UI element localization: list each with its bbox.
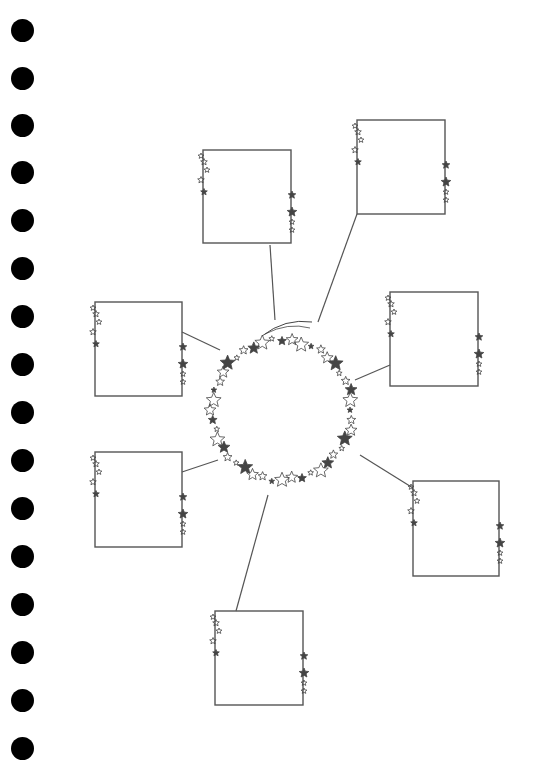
star-icon bbox=[388, 301, 395, 307]
star-icon bbox=[298, 474, 307, 482]
star-icon bbox=[180, 529, 186, 534]
star-icon bbox=[93, 341, 100, 347]
star-icon bbox=[355, 129, 362, 135]
star-icon bbox=[289, 219, 295, 224]
star-icon bbox=[201, 159, 208, 165]
box-bottom[interactable] bbox=[215, 611, 303, 705]
star-icon bbox=[496, 522, 504, 529]
star-icon bbox=[347, 407, 353, 412]
star-icon bbox=[204, 167, 210, 172]
star-icon bbox=[495, 538, 505, 547]
star-icon bbox=[443, 197, 449, 202]
connector-line bbox=[270, 245, 275, 320]
star-icon bbox=[300, 652, 308, 659]
star-icon bbox=[93, 311, 100, 317]
shooting-star-tail bbox=[262, 321, 312, 336]
connector-line bbox=[360, 455, 413, 488]
star-icon bbox=[391, 309, 397, 314]
star-icon bbox=[476, 361, 482, 366]
star-icon bbox=[301, 680, 307, 685]
star-icon bbox=[411, 520, 418, 526]
star-icon bbox=[269, 478, 275, 483]
star-icon bbox=[301, 688, 307, 693]
star-icon bbox=[308, 343, 314, 349]
star-icon bbox=[337, 431, 352, 445]
star-icon bbox=[388, 331, 395, 337]
star-icon bbox=[216, 377, 225, 385]
star-icon bbox=[336, 370, 342, 376]
star-icon bbox=[96, 319, 102, 324]
star-icon bbox=[411, 490, 418, 496]
star-icon bbox=[286, 471, 298, 482]
star-icon bbox=[329, 450, 338, 458]
star-icon bbox=[299, 668, 309, 677]
star-icon bbox=[258, 472, 267, 480]
star-icon bbox=[286, 334, 298, 345]
star-icon bbox=[497, 550, 503, 555]
star-icon bbox=[206, 392, 221, 406]
star-icon bbox=[204, 404, 216, 415]
star-icon bbox=[343, 392, 358, 406]
star-icon bbox=[441, 177, 451, 186]
star-icon bbox=[358, 137, 364, 142]
star-icon bbox=[234, 355, 240, 360]
star-icon bbox=[213, 620, 220, 626]
box-top-left[interactable] bbox=[203, 150, 291, 243]
star-icon bbox=[208, 415, 217, 423]
star-icon bbox=[218, 441, 230, 452]
connector-line bbox=[355, 365, 390, 380]
star-icon bbox=[278, 336, 287, 344]
star-icon bbox=[96, 469, 102, 474]
box-mid-left[interactable] bbox=[95, 302, 182, 396]
star-icon bbox=[414, 498, 420, 503]
star-icon bbox=[443, 189, 449, 194]
star-icon bbox=[223, 453, 232, 461]
star-icon bbox=[345, 384, 357, 395]
star-icon bbox=[475, 333, 483, 340]
star-icon bbox=[345, 424, 357, 435]
star-icon bbox=[497, 558, 503, 563]
box-low-left[interactable] bbox=[95, 452, 182, 547]
box-top-right[interactable] bbox=[357, 120, 445, 214]
star-icon bbox=[288, 191, 296, 198]
star-icon bbox=[341, 376, 350, 384]
star-icon bbox=[322, 457, 334, 468]
star-icon bbox=[178, 359, 188, 368]
star-icon bbox=[179, 493, 187, 500]
star-icon bbox=[275, 472, 290, 486]
box-low-right[interactable] bbox=[413, 481, 499, 576]
star-icon bbox=[476, 369, 482, 374]
connector-line bbox=[182, 332, 220, 350]
star-icon bbox=[289, 227, 295, 232]
connector-line bbox=[318, 214, 357, 322]
star-icon bbox=[180, 371, 186, 376]
star-icon bbox=[213, 650, 220, 656]
star-icon bbox=[180, 521, 186, 526]
star-icon bbox=[180, 379, 186, 384]
star-icon bbox=[239, 346, 248, 354]
star-icon bbox=[201, 189, 208, 195]
star-icon bbox=[214, 426, 220, 431]
star-icon bbox=[211, 387, 217, 392]
star-icon bbox=[474, 349, 484, 358]
connector-line bbox=[182, 460, 218, 472]
star-icon bbox=[347, 415, 356, 423]
star-icon bbox=[216, 628, 222, 633]
star-icon bbox=[339, 445, 345, 450]
star-icon bbox=[355, 159, 362, 165]
connector-line bbox=[236, 495, 268, 611]
star-icon bbox=[308, 470, 314, 475]
star-icon bbox=[287, 207, 297, 216]
star-icon bbox=[442, 161, 450, 168]
mind-map-drawing bbox=[0, 0, 539, 783]
star-icon bbox=[93, 491, 100, 497]
star-icon bbox=[179, 343, 187, 350]
box-mid-right[interactable] bbox=[390, 292, 478, 386]
star-icon bbox=[317, 345, 326, 353]
star-icon bbox=[93, 461, 100, 467]
star-icon bbox=[238, 459, 253, 473]
star-icon bbox=[178, 509, 188, 518]
